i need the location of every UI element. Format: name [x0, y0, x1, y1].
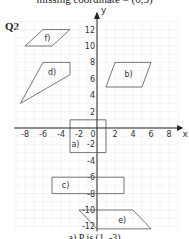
y-tick-label: -6 [87, 173, 95, 182]
y-tick-label: -12 [82, 222, 95, 231]
y-tick-label: 4 [90, 91, 95, 100]
shape-label: e) [118, 216, 126, 225]
x-tick-label: 6 [148, 130, 153, 139]
bottom-text: a) P is (1, -3) [0, 232, 189, 239]
x-tick-label: -4 [57, 130, 65, 139]
y-tick-label: 6 [90, 75, 95, 84]
y-tick-label: -10 [82, 206, 95, 215]
y-axis-arrow-icon [94, 12, 100, 19]
y-tick-label: 10 [85, 42, 95, 51]
x-tick-label: 0 [90, 130, 95, 139]
y-tick-label: 8 [90, 58, 95, 67]
x-tick-label: -8 [21, 130, 29, 139]
y-axis-label: y [101, 5, 107, 15]
x-tick-label: 8 [166, 130, 171, 139]
x-tick-label: 4 [130, 130, 135, 139]
shape-label: a) [71, 140, 79, 149]
x-tick-label: 2 [112, 130, 117, 139]
x-tick-label: -6 [39, 130, 47, 139]
y-tick-label: -2 [87, 140, 95, 149]
coordinate-plane: xy -8-6-4-20246812108642-2-4-6-8-10-12 a… [0, 0, 189, 239]
shape-d [21, 62, 71, 103]
axes: xy [14, 5, 188, 232]
y-tick-label: 2 [90, 108, 95, 117]
y-tick-label: -4 [87, 157, 95, 166]
x-axis-label: x [183, 129, 189, 139]
shape-label: f) [45, 34, 51, 43]
y-tick-label: -8 [87, 190, 95, 199]
shape-label: c) [62, 181, 70, 190]
shape-label: d) [48, 68, 56, 77]
x-tick-label: -2 [75, 130, 83, 139]
y-tick-label: 12 [85, 26, 95, 35]
shape-label: b) [124, 70, 132, 79]
